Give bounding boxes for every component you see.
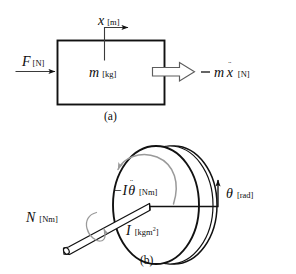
panel-b-caption: (b): [140, 255, 153, 267]
inertial-torque-double-dot: ¨: [130, 178, 134, 187]
applied-force-symbol: F: [22, 54, 31, 69]
shaft-hub-edge: [150, 204, 151, 211]
displacement-symbol: x: [98, 13, 104, 28]
disk-front-face: [113, 146, 199, 264]
applied-force-label-F: F[N]: [22, 53, 44, 69]
inertial-force-accel-symbol: ¨x: [227, 66, 233, 80]
applied-force-unit: [N]: [33, 58, 45, 68]
mass-label-m: m[kg]: [89, 64, 116, 80]
displacement-label-x: x[m]: [98, 12, 120, 28]
angle-symbol: θ: [226, 186, 233, 201]
inertial-force-unit: [N]: [238, 69, 250, 79]
torque-symbol: N: [26, 210, 35, 225]
panel-a-caption: (a): [104, 111, 117, 123]
angle-label-theta: θ[rad]: [226, 185, 253, 201]
inertial-torque-inertia-symbol: I: [122, 183, 127, 198]
mass-symbol: m: [89, 65, 99, 80]
inertial-force-label: m¨x[N]: [214, 64, 250, 80]
torque-unit: [Nm]: [39, 214, 57, 224]
inertia-unit: [kgm2]: [135, 227, 159, 237]
angle-unit: [rad]: [237, 190, 254, 200]
displacement-unit: [m]: [107, 17, 119, 27]
torque-label-N: N[Nm]: [26, 209, 58, 225]
mass-unit: [kg]: [102, 69, 116, 79]
inertia-symbol: I: [126, 223, 131, 238]
inertial-force-mass-symbol: m: [214, 65, 224, 80]
inertia-label-I: I[kgm2]: [126, 222, 158, 238]
inertial-torque-accel-symbol: ¨θ: [128, 184, 135, 198]
figure-container: x[m] F[N] m[kg] m¨x[N] (a) −I¨θ[Nm] θ[ra…: [0, 0, 296, 274]
inertial-torque-label: −I¨θ[Nm]: [113, 182, 157, 198]
inertial-torque-unit: [Nm]: [139, 187, 157, 197]
inertial-force-double-dot: ¨: [228, 60, 232, 69]
